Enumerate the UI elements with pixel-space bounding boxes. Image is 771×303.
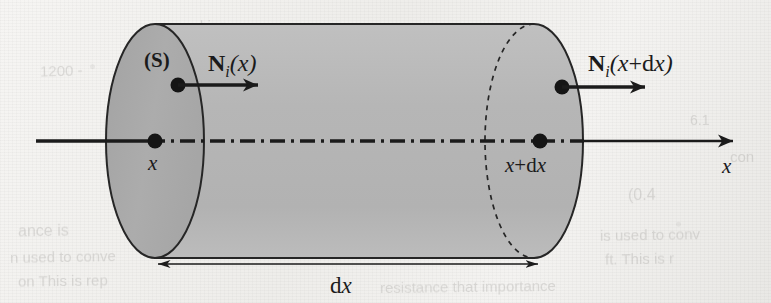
dx-label-d: d (330, 273, 342, 298)
flux-in-label: Ni(x) (208, 50, 256, 80)
flux-out-label-N: N (588, 50, 606, 76)
cylinder-control-volume-figure: (S) Ni(x) Ni(x+dx) x x+dx x (0, 0, 771, 303)
svg-text:x+dx: x+dx (504, 153, 547, 177)
axis-point-x-plus-dx-label: x+dx (504, 153, 547, 177)
svg-text:dx: dx (330, 273, 353, 298)
axis-point-right-d: d (526, 153, 537, 177)
flux-out-label-arg-plus: + (628, 50, 642, 76)
flux-in-label-N: N (208, 50, 226, 76)
figure-page: 1200 -hingance isn used to conveon This … (0, 0, 771, 303)
dx-label-x: x (341, 273, 353, 298)
flux-out-label: Ni(x+dx) (588, 50, 673, 80)
axis-point-x-marker (148, 134, 163, 149)
axis-point-right-plus: + (514, 153, 526, 177)
flux-in-label-arg: (x) (230, 50, 257, 76)
flux-out-label-arg-x2: x) (653, 50, 673, 76)
flux-out-label-arg-x: (x (610, 50, 629, 76)
axis-point-right-x2: x (536, 153, 547, 177)
axis-point-x-plus-dx-marker (533, 134, 548, 149)
axis-point-x-label: x (147, 151, 158, 175)
svg-text:Ni(x): Ni(x) (208, 50, 256, 80)
x-axis-name-label: x (721, 154, 732, 178)
surface-label: (S) (144, 48, 170, 72)
svg-text:Ni(x+dx): Ni(x+dx) (588, 50, 673, 80)
flux-out-label-arg-d: d (642, 50, 654, 76)
dx-dimension-label: dx (330, 273, 353, 298)
